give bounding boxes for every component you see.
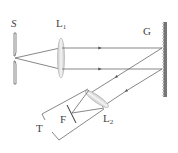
grating [163, 22, 167, 97]
telescope-label: T [36, 122, 43, 134]
lens-l1-label: L1 [56, 17, 67, 31]
focal-plane [67, 105, 76, 123]
spectrometer-diagram: S L1 G L2 F T [0, 0, 178, 153]
lens-l1 [58, 38, 65, 78]
lens-l2-label: L2 [103, 112, 114, 126]
collimated-rays [62, 48, 162, 69]
incident-rays [15, 48, 60, 69]
grating-label: G [143, 25, 151, 37]
diffracted-rays [92, 48, 162, 107]
slit-label: S [11, 17, 17, 29]
focal-plane-label: F [60, 113, 66, 125]
